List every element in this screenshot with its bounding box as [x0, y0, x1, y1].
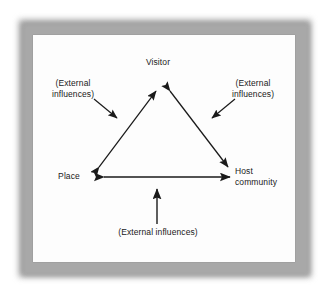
- figure-root: Visitor Place Host community (External i…: [0, 0, 330, 300]
- node-label-visitor: Visitor: [130, 57, 186, 68]
- arrow-external-left: [94, 99, 117, 118]
- diagram-canvas: [0, 0, 330, 300]
- influence-label-left: (External influences): [38, 78, 108, 99]
- edge-visitor-host: [170, 91, 228, 167]
- node-label-place: Place: [47, 171, 91, 182]
- node-label-host-community: Host community: [235, 166, 297, 187]
- arrow-external-right: [212, 99, 235, 118]
- edge-place-visitor: [99, 91, 156, 167]
- influence-label-right: (External influences): [215, 78, 291, 99]
- influence-label-bottom: (External influences): [95, 227, 221, 238]
